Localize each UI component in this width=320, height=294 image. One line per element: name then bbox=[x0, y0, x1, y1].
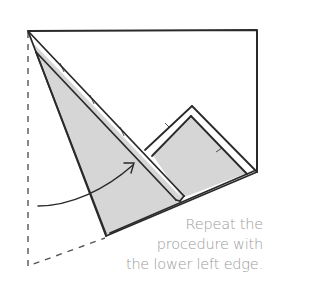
instruction-caption: Repeat the procedure with the lower left… bbox=[63, 214, 263, 274]
caption-line-3: the lower left edge. bbox=[63, 254, 263, 274]
caption-line-2: procedure with bbox=[63, 234, 263, 254]
caption-line-1: Repeat the bbox=[63, 214, 263, 234]
